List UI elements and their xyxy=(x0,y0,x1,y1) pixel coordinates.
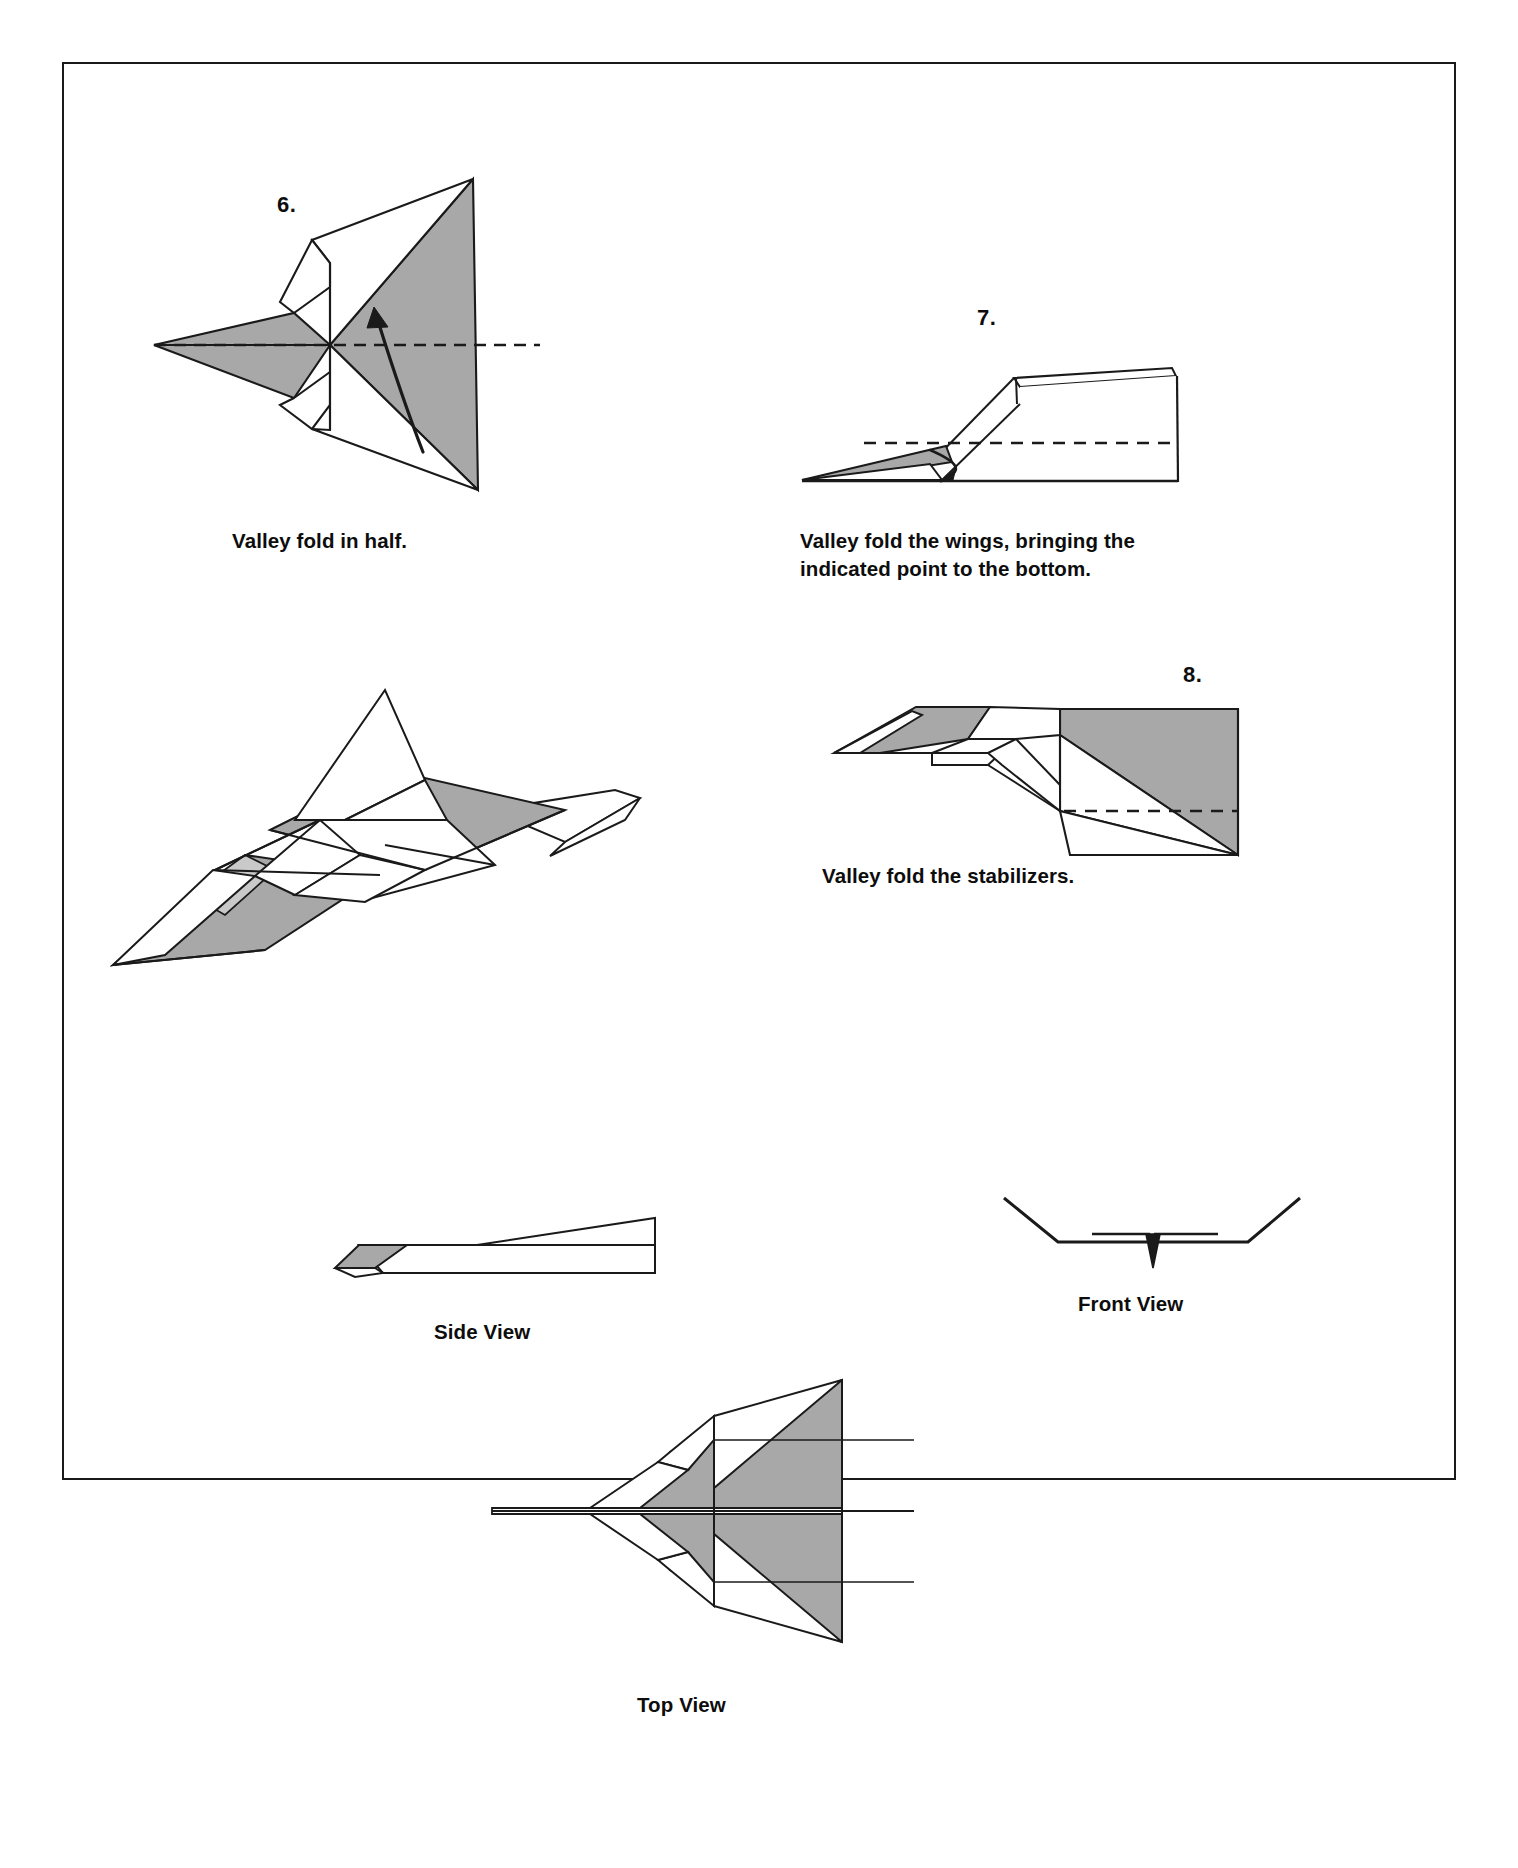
step7-diagram xyxy=(780,300,1200,530)
front-view-center-keel xyxy=(1146,1234,1160,1268)
step6-diagram xyxy=(140,165,540,525)
step-6-caption: Valley fold in half. xyxy=(232,527,652,555)
front-view-diagram xyxy=(1002,1180,1302,1270)
step-8-caption: Valley fold the stabilizers. xyxy=(822,862,1242,890)
front-view-right-wing xyxy=(1152,1198,1300,1242)
side-view-tail-wedge xyxy=(477,1218,655,1245)
step-7-caption: Valley fold the wings, bringing the indi… xyxy=(800,527,1260,583)
top-view-diagram xyxy=(490,1380,920,1680)
front-view-left-wing xyxy=(1004,1198,1152,1242)
side-view-diagram xyxy=(335,1185,675,1285)
step-8-number: 8. xyxy=(1183,662,1203,688)
top-view-label: Top View xyxy=(637,1693,726,1717)
side-view-label: Side View xyxy=(434,1320,530,1344)
side-view-fuselage xyxy=(359,1245,655,1273)
page-root: 6. Valley fold in half. 7. xyxy=(0,0,1518,1868)
step8-diagram xyxy=(820,695,1240,875)
step8-strut-panel xyxy=(988,739,1060,811)
step6-nose-upper-shaded xyxy=(154,313,330,345)
finished-model-perspective xyxy=(95,670,655,1010)
step7-apex-crease xyxy=(1016,378,1017,404)
step7-tail-edge xyxy=(1177,376,1178,482)
front-view-label: Front View xyxy=(1078,1292,1183,1316)
side-view-nose-white xyxy=(335,1268,383,1277)
step7-wing-surface xyxy=(1008,376,1178,480)
